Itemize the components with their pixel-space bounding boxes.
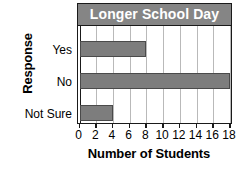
x-axis-tick-label: 4 (109, 128, 116, 142)
y-axis-tick-label: No (57, 74, 72, 90)
bar-chart-figure: Response Yes No Not Sure Longer School D… (0, 0, 242, 171)
x-axis-tick-label: 6 (125, 128, 132, 142)
x-axis-tick-label: 12 (172, 128, 185, 142)
x-axis-tick-labels: 024681012141618 (77, 128, 232, 143)
x-axis-tick-label: 16 (206, 128, 219, 142)
bar-not-sure (80, 105, 113, 121)
x-axis-title: Number of Students (56, 146, 242, 161)
x-axis-tick-label: 10 (155, 128, 168, 142)
x-axis-tick-label: 0 (75, 128, 82, 142)
x-axis-tick-label: 18 (222, 128, 235, 142)
bar-yes (80, 41, 147, 57)
y-axis-tick-label: Yes (52, 42, 72, 58)
x-axis-tick-label: 2 (92, 128, 99, 142)
bars-layer (78, 26, 231, 123)
x-axis-tick-label: 14 (189, 128, 202, 142)
y-axis-tick-labels: Yes No Not Sure (0, 27, 76, 124)
chart-title: Longer School Day (77, 3, 232, 26)
x-axis-tick-label: 8 (142, 128, 149, 142)
plot-area (77, 26, 232, 124)
bar-no (80, 73, 231, 89)
y-axis-tick-label: Not Sure (25, 106, 72, 122)
